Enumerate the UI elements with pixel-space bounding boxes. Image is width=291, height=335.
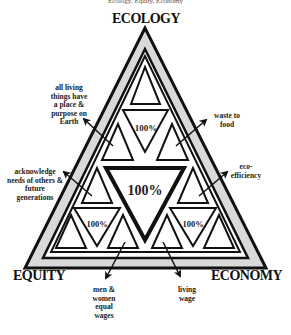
annotation-all-living-things: all living things have a place & purpose… [48, 84, 90, 127]
center-percent: 100% [128, 183, 163, 198]
annotation-waste-to-food: waste to food [210, 112, 244, 129]
vertex-label-ecology: ECOLOGY [112, 11, 180, 27]
left-percent: 100% [86, 219, 107, 229]
annotation-living-wage: living wage [174, 286, 200, 303]
right-percent: 100% [182, 219, 203, 229]
vertex-label-economy: ECONOMY [211, 268, 282, 284]
vertex-label-equity: EQUITY [13, 268, 65, 284]
annotation-acknowledge-needs: acknowledge needs of others & future gen… [6, 168, 64, 202]
top-percent: 100% [135, 123, 158, 133]
annotation-equal-wages: men & women equal wages [88, 286, 120, 320]
annotation-eco-efficiency: eco-efficiency [228, 163, 264, 180]
